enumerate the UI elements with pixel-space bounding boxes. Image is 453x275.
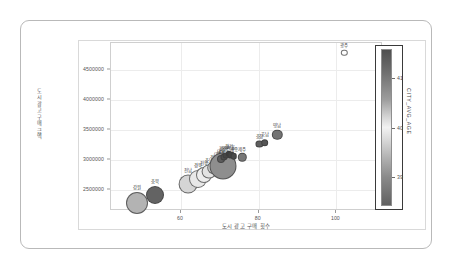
y-tick-label: 2500000 [83, 186, 104, 192]
gridline-vertical [259, 43, 260, 209]
x-tick-label: 60 [177, 215, 183, 221]
scatter-bubble[interactable] [146, 186, 164, 204]
colorbar-tick-label: 41 [397, 75, 403, 81]
x-axis-title: 도시 광고 구매 횟수 [110, 222, 382, 230]
scatter-bubble[interactable] [272, 130, 282, 140]
plot-inner: 강원충북전남경북전북충남경남대전광주울산대구부산인천경기서울세종제주충청호남영남… [111, 43, 381, 209]
x-tick-mark [258, 210, 259, 213]
colorbar-tick-label: 39 [397, 174, 403, 180]
scatter-bubble[interactable] [261, 139, 269, 147]
y-tick-label: 3500000 [83, 126, 104, 132]
y-tick-label: 3000000 [83, 156, 104, 162]
scatter-bubble-label: 강원 [133, 187, 141, 192]
colorbar-tick-label: 40 [397, 125, 403, 131]
y-tick-label: 4000000 [83, 96, 104, 102]
gridline-horizontal [111, 70, 381, 71]
footer-artifact-text [14, 263, 264, 271]
y-axis-title: 도시 광고 구매 금액 [31, 88, 41, 139]
x-tick-label: 100 [331, 215, 340, 221]
x-tick-mark [180, 210, 181, 213]
scatter-bubble-label: 호남 [261, 134, 269, 139]
colorbar-tick-mark [392, 177, 395, 178]
scatter-bubble[interactable] [341, 49, 347, 55]
y-tick-label: 4500000 [83, 66, 104, 72]
gridline-horizontal [111, 100, 381, 101]
colorbar-title: CITY_AVG_AGE [406, 88, 412, 135]
scatter-bubble-label: 세종 [230, 148, 238, 153]
scatter-bubble-label: 충북 [151, 180, 159, 185]
gridline-horizontal [111, 130, 381, 131]
colorbar-tick-mark [392, 128, 395, 129]
x-tick-label: 80 [255, 215, 261, 221]
scatter-bubble[interactable] [231, 153, 237, 159]
scatter-bubble-label: 제주 [238, 148, 246, 153]
scatter-bubble[interactable] [126, 192, 148, 214]
screenshot-root: 도시 광고 구매 금액 2500000300000035000004000000… [0, 0, 453, 275]
gridline-horizontal [111, 160, 381, 161]
gridline-vertical [336, 43, 337, 209]
scatter-bubble-label: 영남 [273, 125, 281, 130]
x-tick-mark [335, 210, 336, 213]
colorbar-tick-mark [392, 78, 395, 79]
plot-area: 강원충북전남경북전북충남경남대전광주울산대구부산인천경기서울세종제주충청호남영남… [110, 42, 382, 210]
colorbar-gradient [381, 49, 392, 206]
scatter-bubble-label: 광주 [340, 44, 348, 49]
